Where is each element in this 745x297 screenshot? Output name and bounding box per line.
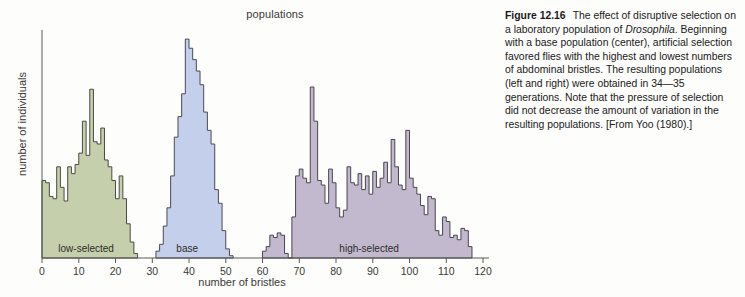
series-label-low-selected: low-selected bbox=[58, 243, 114, 254]
x-axis-tick-label: 80 bbox=[330, 265, 342, 277]
x-axis-tick-label: 20 bbox=[110, 265, 122, 277]
series-label-high-selected: high-selected bbox=[339, 243, 398, 254]
caption-label: Figure 12.16 bbox=[505, 10, 566, 21]
chart-panel: populations number of individuals number… bbox=[0, 0, 500, 297]
x-axis-tick-label: 0 bbox=[39, 265, 45, 277]
caption-species-name: Drosophila bbox=[625, 24, 675, 35]
series-layer bbox=[42, 39, 472, 258]
x-axis-tick-label: 50 bbox=[220, 265, 232, 277]
x-axis-tick-label: 110 bbox=[438, 265, 455, 277]
x-axis-tick-label: 100 bbox=[401, 265, 419, 277]
figure-container: populations number of individuals number… bbox=[0, 0, 745, 297]
x-axis-tick-label: 10 bbox=[73, 265, 85, 277]
histogram-series-low-selected bbox=[42, 89, 138, 258]
x-axis-tick-label: 30 bbox=[146, 265, 158, 277]
caption-text-part2: . Beginning with a base population (cent… bbox=[505, 24, 732, 130]
x-axis-tick-label: 120 bbox=[474, 265, 492, 277]
series-label-base: base bbox=[176, 243, 198, 254]
histogram-series-high-selected bbox=[263, 87, 472, 258]
figure-caption: Figure 12.16The effect of disruptive sel… bbox=[505, 9, 737, 131]
histogram-series-base bbox=[156, 39, 233, 258]
x-axis-tick-label: 90 bbox=[367, 265, 379, 277]
histogram-plot: 0102030405060708090100110120 low-selecte… bbox=[0, 0, 500, 297]
x-axis-tick-label: 60 bbox=[257, 265, 269, 277]
x-axis-tick-label: 70 bbox=[293, 265, 305, 277]
x-axis-tick-label: 40 bbox=[183, 265, 195, 277]
